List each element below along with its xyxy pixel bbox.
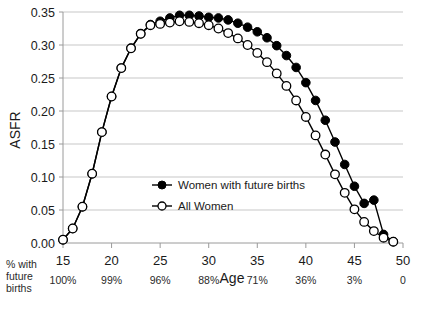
secondary-axis-caption: % withfuturebirths [6,258,37,294]
secondary-axis-label-4: 71% [247,274,268,286]
y-tick-label-5: 0.25 [31,72,55,86]
data-point-s1-19 [98,128,107,137]
data-point-s0-33 [234,19,243,28]
data-point-s1-29 [195,19,204,28]
data-point-s0-41 [311,96,320,105]
data-point-s1-25 [156,20,165,29]
chart-legend: Women with future births All Women [152,179,305,212]
x-tick-label-0: 15 [56,253,70,268]
chart-container: 0.000.050.100.150.200.250.300.35 1520253… [0,0,433,310]
secondary-axis-caption-line-1: future [6,270,33,282]
y-tick-label-7: 0.35 [31,6,55,20]
data-point-s0-44 [340,160,349,169]
data-point-s1-47 [370,227,379,236]
y-axis-title: ASFR [7,111,23,148]
data-point-s1-42 [321,150,330,159]
y-tick-label-2: 0.10 [31,171,55,185]
secondary-axis-label-3: 88% [198,274,219,286]
data-point-s0-36 [263,33,272,42]
legend-item-women-with-future-births: Women with future births [152,179,305,191]
data-point-s0-39 [292,63,301,72]
y-tick-label-6: 0.30 [31,39,55,53]
data-point-s0-46 [360,199,369,208]
legend-marker-open-circle [158,202,166,210]
data-point-s1-15 [59,235,68,244]
data-point-s1-16 [68,224,77,233]
data-point-s1-18 [88,169,97,178]
data-point-s0-47 [370,196,379,205]
data-point-s1-27 [175,17,184,26]
data-point-s1-26 [166,18,175,27]
data-point-s1-46 [360,218,369,227]
data-point-s0-34 [243,23,252,32]
data-point-s0-38 [282,51,291,60]
x-tick-label-2: 25 [153,253,167,268]
data-point-s1-40 [302,113,311,122]
data-point-s1-24 [146,21,155,30]
legend-label-women-with-future-births: Women with future births [178,179,305,191]
x-tick-labels-group: 1520253035404550 [56,253,410,268]
legend-label-all-women: All Women [178,200,233,212]
data-point-s1-45 [350,205,359,214]
data-point-s0-32 [224,16,233,25]
data-point-s1-31 [214,24,223,33]
data-point-s0-31 [214,14,223,23]
secondary-axis-label-7: 0 [400,274,406,286]
data-point-s1-28 [185,18,194,27]
secondary-axis-label-1: 99% [101,274,122,286]
legend-marker-filled-circle [158,181,166,189]
secondary-axis-label-6: 3% [347,274,362,286]
data-point-s1-48 [379,233,388,242]
secondary-axis-label-2: 96% [150,274,171,286]
data-point-s1-43 [331,170,340,179]
data-point-s1-33 [234,34,243,43]
data-point-s1-20 [107,92,116,101]
data-point-s1-39 [292,96,301,105]
x-tick-marks-group [63,243,403,248]
data-point-s1-35 [253,49,262,58]
data-point-s1-41 [311,131,320,140]
y-tick-label-0: 0.00 [31,237,55,251]
secondary-axis-caption-line-0: % with [6,258,37,270]
data-point-s0-40 [302,78,311,87]
x-tick-label-4: 35 [250,253,264,268]
data-point-s0-35 [253,28,262,37]
x-axis-title: Age [220,270,245,286]
data-point-s0-42 [321,116,330,125]
data-point-s1-36 [263,58,272,67]
data-point-s1-21 [117,64,126,73]
secondary-axis-caption-line-2: births [6,282,32,294]
data-point-s1-37 [272,69,281,78]
data-point-s1-38 [282,82,291,91]
data-point-s1-32 [224,29,233,38]
y-tick-label-4: 0.20 [31,105,55,119]
data-point-s1-30 [204,21,213,30]
x-tick-label-7: 50 [396,253,410,268]
x-tick-label-1: 20 [104,253,118,268]
data-point-s1-23 [136,29,145,38]
data-point-s1-22 [127,44,136,53]
data-point-s0-45 [350,182,359,191]
asfr-line-chart: 0.000.050.100.150.200.250.300.35 1520253… [0,0,433,310]
x-tick-label-3: 30 [201,253,215,268]
data-point-s1-34 [243,41,252,50]
data-point-s1-44 [340,189,349,198]
y-tick-label-1: 0.05 [31,204,55,218]
secondary-axis-label-5: 36% [295,274,316,286]
y-tick-label-3: 0.15 [31,138,55,152]
secondary-axis-label-0: 100% [50,274,77,286]
y-tick-labels-group: 0.000.050.100.150.200.250.300.35 [31,6,55,251]
x-tick-label-5: 40 [299,253,313,268]
data-point-s1-49 [389,237,398,246]
x-tick-label-6: 45 [347,253,361,268]
data-point-s1-17 [78,202,87,211]
data-point-s0-37 [272,41,281,50]
data-point-s0-43 [331,138,340,147]
